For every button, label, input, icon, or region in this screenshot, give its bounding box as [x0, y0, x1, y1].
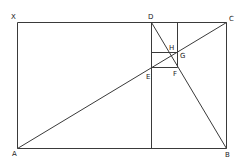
- label-b: B: [225, 151, 230, 159]
- diagonal-db: [152, 23, 227, 149]
- label-c: C: [229, 15, 234, 23]
- golden-rectangle-diagram: X D C H G E F A B: [0, 0, 243, 163]
- label-h: H: [169, 44, 174, 52]
- label-d: D: [148, 13, 153, 21]
- label-f: F: [173, 70, 177, 78]
- label-e: E: [146, 73, 150, 81]
- diagonal-ac: [18, 23, 227, 149]
- label-g: G: [180, 52, 185, 60]
- label-x: X: [11, 13, 16, 21]
- label-a: A: [12, 150, 17, 158]
